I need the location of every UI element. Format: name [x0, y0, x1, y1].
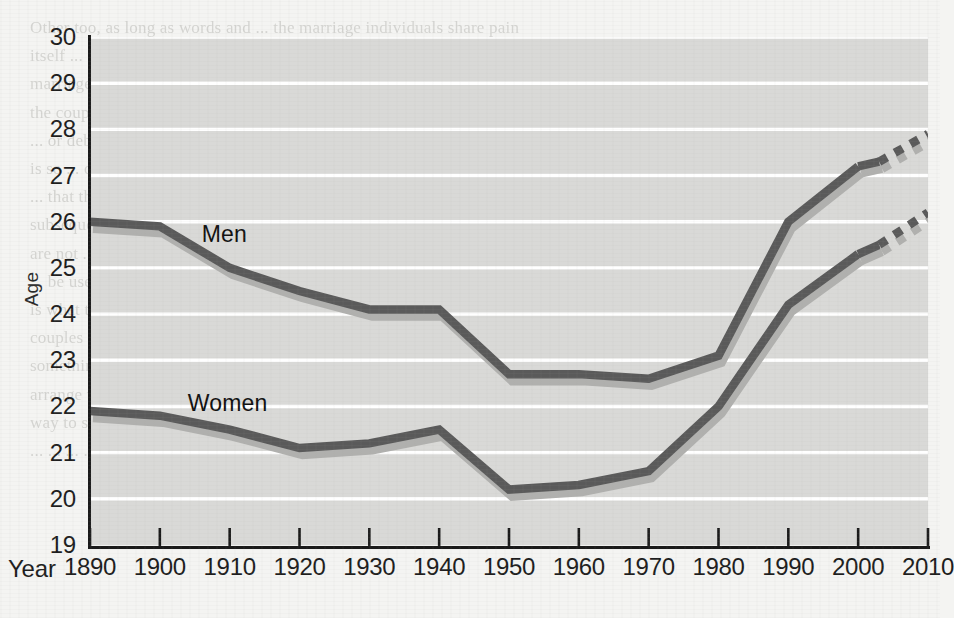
x-tick-label-1910: 1910: [204, 555, 256, 579]
series-label-women: Women: [188, 390, 268, 417]
x-tick-label-1990: 1990: [762, 555, 814, 579]
x-tick-label-1890: 1890: [64, 555, 116, 579]
y-axis-line: [88, 35, 91, 549]
series-shadow-layer: [93, 169, 882, 497]
series-label-men: Men: [202, 221, 247, 248]
x-tick-label-1960: 1960: [553, 555, 605, 579]
y-tick-label-28: 28: [20, 117, 76, 141]
x-tick-label-1970: 1970: [623, 555, 675, 579]
x-tick-label-2010: 2010: [902, 555, 954, 579]
y-tick-label-27: 27: [20, 164, 76, 188]
y-tick-label-29: 29: [20, 71, 76, 95]
y-tick-label-20: 20: [20, 487, 76, 511]
y-axis-tick-labels: 302928272625242322212019: [14, 0, 76, 618]
chart-canvas: [90, 37, 928, 545]
x-tick-label-1920: 1920: [273, 555, 325, 579]
y-tick-label-25: 25: [20, 256, 76, 280]
plot-area: [90, 37, 928, 545]
y-tick-label-30: 30: [20, 25, 76, 49]
x-tick-label-1950: 1950: [483, 555, 535, 579]
x-tick-label-1930: 1930: [343, 555, 395, 579]
y-tick-label-26: 26: [20, 210, 76, 234]
x-axis-tick-labels: 1890190019101920193019401950196019701980…: [0, 555, 940, 595]
series-projection-layer: [879, 134, 928, 252]
y-tick-label-23: 23: [20, 348, 76, 372]
x-tick-label-2000: 2000: [832, 555, 884, 579]
x-tick-label-1900: 1900: [134, 555, 186, 579]
x-axis-tick-marks: [88, 528, 940, 550]
series-line-layer: [90, 162, 879, 490]
y-tick-label-22: 22: [20, 394, 76, 418]
y-tick-label-21: 21: [20, 441, 76, 465]
y-tick-label-24: 24: [20, 302, 76, 326]
x-tick-label-1980: 1980: [692, 555, 744, 579]
x-tick-label-1940: 1940: [413, 555, 465, 579]
